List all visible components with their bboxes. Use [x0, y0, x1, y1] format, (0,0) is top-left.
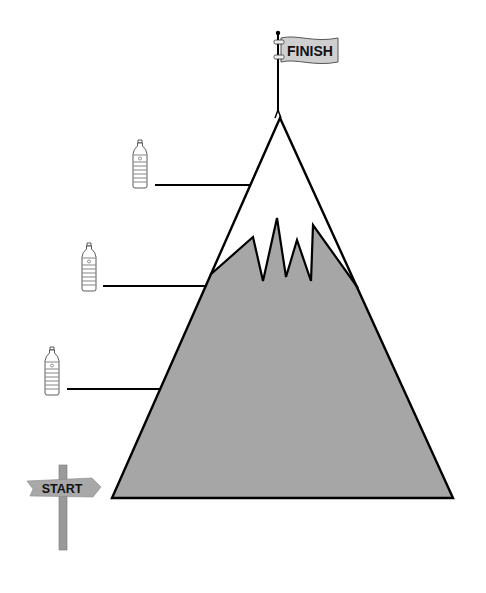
- start-label: START: [42, 482, 83, 496]
- checkpoint-high: [133, 140, 250, 188]
- mountain-diagram: FINISH START: [0, 0, 486, 593]
- checkpoint-low: [45, 347, 160, 395]
- finish-label: FINISH: [287, 43, 333, 59]
- start-sign: START: [27, 465, 101, 550]
- water-bottle-icon: [82, 243, 96, 291]
- mountain: [112, 118, 453, 498]
- finish-flag: FINISH: [274, 31, 338, 118]
- water-bottle-icon: [133, 140, 147, 188]
- sign-post: [59, 465, 67, 550]
- checkpoint-middle: [82, 243, 207, 291]
- water-bottle-icon: [45, 347, 59, 395]
